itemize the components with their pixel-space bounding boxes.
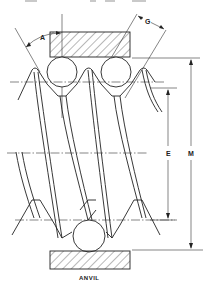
upper-wire-right	[101, 57, 131, 87]
lower-wire	[73, 220, 105, 252]
g-arrowhead-left	[138, 16, 143, 20]
label-a: A	[40, 34, 45, 41]
g-arrowhead-right	[159, 25, 164, 29]
e-arrowhead-top	[166, 89, 170, 95]
label-m: M	[188, 150, 194, 157]
angle-a-arrowhead-left	[26, 42, 31, 47]
three-wire-thread-diagram: A G	[0, 0, 211, 283]
e-arrowhead-bottom	[166, 213, 170, 219]
m-arrowhead-bottom	[189, 243, 193, 249]
angle-a-flank-line	[15, 28, 40, 72]
upper-wire-left	[47, 57, 77, 87]
upper-measuring-block	[50, 32, 130, 57]
label-g: G	[145, 18, 151, 25]
label-anvil: ANVIL	[79, 275, 100, 281]
header-cutoff-text	[25, 0, 146, 2]
label-e: E	[166, 150, 171, 157]
m-arrowhead-top	[189, 59, 193, 65]
thread-helix-strands	[16, 70, 162, 238]
anvil-block	[50, 251, 130, 269]
